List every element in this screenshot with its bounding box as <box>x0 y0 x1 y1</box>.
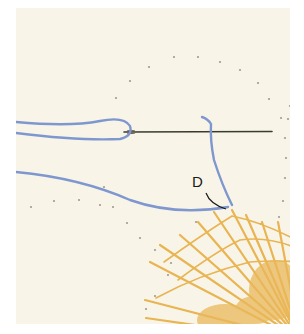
figure-label-d: D <box>192 173 203 190</box>
needlework-photo <box>16 8 290 324</box>
needlework-illustration <box>16 8 290 324</box>
needle <box>124 130 272 133</box>
pricked-dots <box>30 56 290 310</box>
